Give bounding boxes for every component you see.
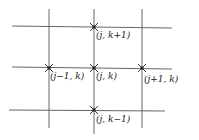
grid-line-horizontal (12, 26, 172, 28)
label-left: (j−1, k) (50, 71, 84, 81)
label-center: (j, k) (96, 71, 117, 81)
label-right: (j+1, k) (144, 74, 178, 84)
grid-line-horizontal (12, 67, 172, 69)
label-bottom: (j, k−1) (96, 114, 130, 124)
label-top: (j, k+1) (96, 30, 130, 40)
